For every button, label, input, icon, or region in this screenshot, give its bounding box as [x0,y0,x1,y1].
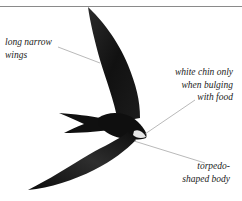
label-line: torpedo- [182,160,230,173]
leader-line-wings [58,47,100,63]
label-line: when bulging [175,79,233,92]
lower-wing [28,132,136,190]
label-line: long narrow [5,36,52,49]
label-long-narrow-wings: long narrow wings [5,36,52,61]
label-line: with food [175,91,233,104]
label-line: white chin only [175,66,233,79]
label-white-chin: white chin only when bulging with food [175,66,233,104]
label-torpedo-body: torpedo- shaped body [182,160,230,185]
label-line: shaped body [182,173,230,186]
label-line: wings [5,49,52,62]
leader-line-chin [145,100,195,134]
upper-wing [88,7,140,122]
